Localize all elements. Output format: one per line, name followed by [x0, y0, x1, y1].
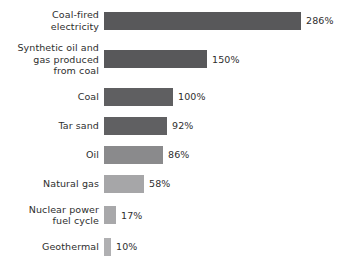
bar-track: 92% [104, 117, 364, 135]
bar-track: 17% [104, 206, 364, 224]
bar-row: Synthetic oil and gas produced from coal… [0, 42, 364, 77]
value-label: 10% [111, 241, 137, 252]
bar-track: 150% [104, 50, 364, 68]
bar-row: Coal100% [0, 88, 364, 106]
category-label: Coal [0, 91, 104, 103]
bar-track: 58% [104, 175, 364, 193]
bar [104, 175, 144, 193]
value-label: 58% [144, 178, 170, 189]
category-label: Oil [0, 149, 104, 161]
bar-row: Nuclear power fuel cycle17% [0, 204, 364, 227]
category-label: Geothermal [0, 241, 104, 253]
bar [104, 206, 116, 224]
value-label: 17% [116, 210, 142, 221]
bar [104, 238, 111, 256]
bar [104, 117, 167, 135]
bar [104, 50, 207, 68]
bar-track: 10% [104, 238, 364, 256]
category-label: Coal-fired electricity [0, 9, 104, 32]
bar-row: Natural gas58% [0, 175, 364, 193]
bar-track: 286% [104, 12, 364, 30]
bar [104, 146, 163, 164]
value-label: 92% [167, 120, 193, 131]
value-label: 150% [207, 54, 240, 65]
category-label: Synthetic oil and gas produced from coal [0, 42, 104, 77]
bar-row: Tar sand92% [0, 117, 364, 135]
value-label: 286% [301, 15, 334, 26]
bar-track: 86% [104, 146, 364, 164]
value-label: 86% [163, 149, 189, 160]
bar-row: Coal-fired electricity286% [0, 9, 364, 32]
bar-track: 100% [104, 88, 364, 106]
horizontal-bar-chart: Coal-fired electricity286%Synthetic oil … [0, 0, 364, 256]
category-label: Nuclear power fuel cycle [0, 204, 104, 227]
bar-row: Oil86% [0, 146, 364, 164]
category-label: Tar sand [0, 120, 104, 132]
bar [104, 88, 173, 106]
bar-row: Geothermal10% [0, 238, 364, 256]
category-label: Natural gas [0, 178, 104, 190]
value-label: 100% [173, 91, 206, 102]
bar [104, 12, 301, 30]
